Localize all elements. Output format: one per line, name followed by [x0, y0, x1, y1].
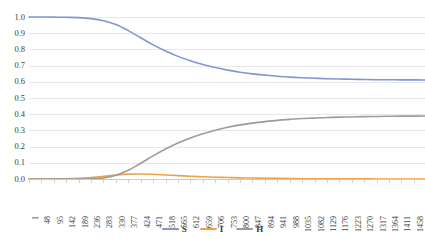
legend-label: H — [256, 224, 263, 234]
legend-swatch-icon — [200, 228, 217, 230]
x-axis-tick-mark — [265, 180, 266, 183]
y-axis-tick-label: 0.3 — [14, 126, 25, 135]
x-axis-tick-mark — [29, 180, 30, 183]
x-axis-tick-mark — [166, 180, 167, 183]
chart-legend: SIH — [0, 221, 425, 237]
line-chart: 1.00.90.80.70.60.50.40.30.20.10.0 148951… — [0, 0, 425, 239]
y-axis-tick-label: 0.8 — [14, 45, 25, 54]
series-line-h — [29, 116, 425, 179]
x-axis-tick-mark — [277, 180, 278, 183]
series-lines — [29, 17, 425, 179]
legend-label: S — [182, 224, 187, 234]
x-axis-tick-mark — [79, 180, 80, 183]
plot-area — [29, 17, 425, 179]
y-axis-tick-label: 0.2 — [14, 142, 25, 151]
y-axis-tick-label: 0.1 — [14, 158, 25, 167]
x-axis-tick-mark — [401, 180, 402, 183]
x-axis-tick-mark — [103, 180, 104, 183]
legend-item-i[interactable]: I — [200, 224, 224, 234]
legend-swatch-icon — [162, 228, 179, 230]
y-axis-labels: 1.00.90.80.70.60.50.40.30.20.10.0 — [0, 0, 27, 196]
x-axis-tick-mark — [141, 180, 142, 183]
y-axis-tick-label: 0.5 — [14, 94, 25, 103]
x-axis-tick-mark — [178, 180, 179, 183]
y-axis-tick-label: 0.6 — [14, 77, 25, 86]
x-axis-tick-mark — [352, 180, 353, 183]
y-axis-tick-label: 0.7 — [14, 61, 25, 70]
legend-label: I — [220, 224, 224, 234]
x-axis-tick-mark — [128, 180, 129, 183]
x-axis-tick-mark — [377, 180, 378, 183]
x-axis-tick-mark — [54, 180, 55, 183]
legend-item-h[interactable]: H — [236, 224, 263, 234]
series-line-s — [29, 17, 425, 80]
y-axis-tick-label: 1.0 — [14, 13, 25, 22]
x-axis-tick-mark — [228, 180, 229, 183]
y-axis-tick-label: 0.9 — [14, 29, 25, 38]
x-axis-tick-mark — [153, 180, 154, 183]
x-axis-tick-mark — [41, 180, 42, 183]
x-axis-tick-mark — [290, 180, 291, 183]
x-axis-tick-mark — [66, 180, 67, 183]
y-axis-tick-label: 0.0 — [14, 175, 25, 184]
x-axis-tick-mark — [190, 180, 191, 183]
x-axis-labels: 1489514218923628333037742447151856561265… — [29, 180, 425, 220]
x-axis-tick-mark — [203, 180, 204, 183]
legend-swatch-icon — [236, 228, 253, 230]
x-axis-tick-mark — [116, 180, 117, 183]
x-axis-tick-mark — [414, 180, 415, 183]
x-axis-tick-mark — [252, 180, 253, 183]
y-axis-tick-label: 0.4 — [14, 110, 25, 119]
x-axis-tick-mark — [215, 180, 216, 183]
x-axis-tick-mark — [327, 180, 328, 183]
x-axis-tick-mark — [339, 180, 340, 183]
x-axis-tick-mark — [302, 180, 303, 183]
legend-item-s[interactable]: S — [162, 224, 187, 234]
x-axis-tick-mark — [364, 180, 365, 183]
x-axis-tick-mark — [315, 180, 316, 183]
x-axis-tick-mark — [91, 180, 92, 183]
x-axis-tick-label: 1 — [32, 216, 40, 220]
x-axis-tick-mark — [240, 180, 241, 183]
x-axis-tick-mark — [389, 180, 390, 183]
